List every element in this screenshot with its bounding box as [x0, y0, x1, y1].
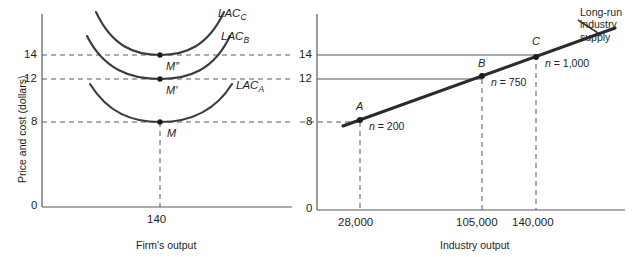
left-panel-axes [42, 14, 292, 207]
point-m-double-prime [157, 52, 162, 57]
right-panel-axes [317, 14, 625, 210]
long-run-industry-supply-line [343, 28, 615, 126]
right-xtick-105000: 105,000 [456, 217, 498, 229]
point-a [357, 117, 363, 123]
lac-b-label-sub: B [243, 35, 249, 45]
n-label-b: n = 750 [491, 77, 526, 88]
label-point-b: B [478, 58, 485, 69]
lac-a-curve [90, 84, 232, 122]
economics-figure: Price and cost (dollars) 14 12 8 0 140 F… [0, 0, 632, 257]
label-m-prime: M′ [166, 85, 177, 96]
left-xtick-140: 140 [147, 214, 166, 226]
label-point-a: A [356, 101, 363, 112]
label-m: M [167, 128, 176, 139]
left-ytick-12: 12 [24, 73, 37, 85]
lac-a-label-sub: A [258, 84, 264, 94]
n-label-c: n = 1,000 [545, 58, 589, 69]
lac-c-label-base: LAC [218, 7, 240, 19]
right-ytick-8: 8 [306, 116, 312, 128]
lac-b-curve [87, 36, 230, 79]
point-b [479, 73, 485, 79]
n-label-a: n = 200 [369, 121, 404, 132]
left-ytick-0: 0 [31, 200, 37, 212]
point-c [533, 54, 539, 60]
supply-label-line-1: Long-run [580, 6, 622, 18]
lac-c-label-sub: C [240, 12, 246, 22]
lac-b-label: LACB [221, 31, 249, 43]
supply-label-line-2: industry [580, 18, 622, 30]
lac-b-label-base: LAC [221, 30, 243, 42]
point-m [157, 119, 162, 124]
lac-a-label-base: LAC [236, 79, 258, 91]
long-run-industry-supply-label: Long-run industry supply [580, 6, 622, 43]
right-xtick-28000: 28,000 [338, 217, 373, 229]
right-ytick-0: 0 [306, 203, 312, 215]
right-x-axis-title: Industry output [440, 240, 509, 251]
label-m-double-prime: M″ [166, 61, 179, 72]
left-y-axis-title: Price and cost (dollars) [16, 76, 28, 183]
lac-minimum-dots [157, 52, 162, 124]
right-ytick-14: 14 [299, 49, 312, 61]
lac-c-curve [96, 12, 224, 55]
lac-curves [87, 12, 232, 122]
lac-a-label: LACA [236, 80, 264, 92]
right-xtick-140000: 140,000 [512, 217, 554, 229]
left-x-axis-title: Firm's output [136, 240, 196, 251]
supply-label-line-3: supply [580, 31, 622, 43]
right-ytick-12: 12 [299, 73, 312, 85]
left-ytick-14: 14 [24, 49, 37, 61]
point-m-prime [157, 76, 162, 81]
lac-c-label: LACC [218, 8, 247, 20]
left-ytick-8: 8 [31, 116, 37, 128]
label-point-c: C [532, 36, 540, 47]
